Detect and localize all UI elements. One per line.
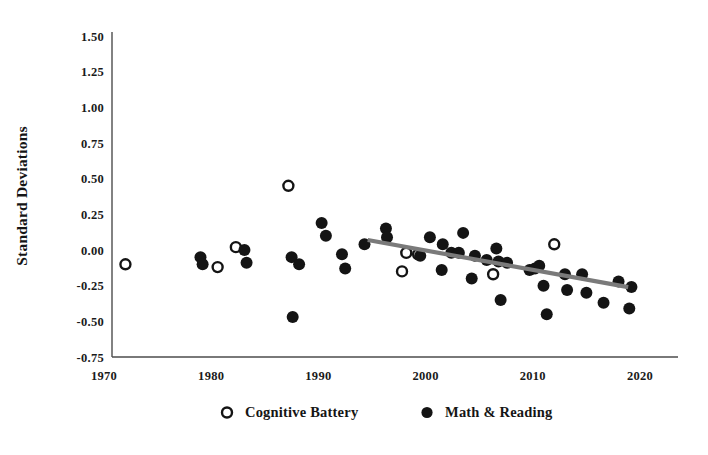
data-point-math-reading	[287, 311, 299, 323]
x-tick-label: 1980	[198, 369, 224, 383]
data-point-math-reading	[580, 287, 592, 299]
y-tick-label: 1.50	[81, 30, 104, 44]
data-point-math-reading	[241, 257, 253, 269]
x-tick-label: 1990	[305, 369, 331, 383]
data-point-math-reading	[339, 263, 351, 275]
data-point-math-reading	[495, 294, 507, 306]
data-point-math-reading	[466, 273, 478, 285]
y-tick-label: 0.25	[81, 208, 104, 222]
data-point-math-reading	[424, 231, 436, 243]
data-point-math-reading	[293, 258, 305, 270]
scatter-chart: -0.75-0.50-0.250.000.250.500.751.001.251…	[0, 0, 708, 455]
x-tick-label: 2020	[627, 369, 653, 383]
data-point-math-reading	[436, 264, 448, 276]
legend-label-cognitive-battery: Cognitive Battery	[245, 404, 359, 420]
data-point-math-reading	[541, 308, 553, 320]
data-point-math-reading	[336, 248, 348, 260]
data-point-cognitive-battery	[120, 259, 130, 269]
data-point-cognitive-battery	[213, 262, 223, 272]
data-point-cognitive-battery	[488, 269, 498, 279]
x-tick-label: 2000	[412, 369, 438, 383]
y-tick-label: -0.25	[76, 279, 104, 293]
legend-marker-cognitive-battery	[222, 408, 232, 418]
legend-label-math-reading: Math & Reading	[445, 404, 553, 420]
x-tick-label: 1970	[91, 369, 117, 383]
data-point-math-reading	[437, 238, 449, 250]
series-math-reading	[194, 217, 637, 323]
data-point-cognitive-battery	[397, 266, 407, 276]
data-point-math-reading	[197, 258, 209, 270]
data-point-math-reading	[623, 302, 635, 314]
data-point-math-reading	[238, 244, 250, 256]
y-tick-label: -0.50	[76, 315, 104, 329]
chart-legend: Cognitive BatteryMath & Reading	[222, 404, 553, 420]
y-tick-label: 1.25	[81, 65, 104, 79]
data-point-math-reading	[457, 227, 469, 239]
data-point-math-reading	[538, 280, 550, 292]
y-tick-label: -0.75	[76, 351, 104, 365]
x-axis-tick-labels: 197019801990200020102020	[91, 369, 653, 383]
data-point-math-reading	[320, 230, 332, 242]
data-point-math-reading	[598, 297, 610, 309]
y-axis-title: Standard Deviations	[13, 126, 30, 265]
data-point-math-reading	[490, 243, 502, 255]
data-point-math-reading	[561, 284, 573, 296]
chart-canvas: -0.75-0.50-0.250.000.250.500.751.001.251…	[0, 0, 708, 455]
y-tick-label: 0.00	[81, 244, 104, 258]
data-point-cognitive-battery	[549, 239, 559, 249]
data-series-group	[120, 181, 637, 323]
y-tick-label: 0.75	[81, 137, 104, 151]
y-tick-label: 0.50	[81, 172, 104, 186]
data-point-cognitive-battery	[283, 181, 293, 191]
y-tick-label: 1.00	[81, 101, 104, 115]
plot-axes	[112, 32, 678, 357]
x-tick-label: 2010	[520, 369, 546, 383]
data-point-math-reading	[316, 217, 328, 229]
legend-marker-math-reading	[421, 407, 432, 418]
y-axis-tick-labels: -0.75-0.50-0.250.000.250.500.751.001.251…	[76, 30, 104, 365]
